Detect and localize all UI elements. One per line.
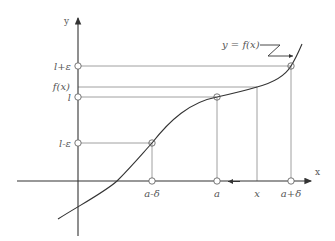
function-curve [58, 44, 302, 219]
curve-markers [149, 63, 294, 146]
marker-a-plus-delta [288, 178, 294, 184]
label-l-minus-epsilon: l-ε [59, 138, 71, 149]
epsilon-delta-diagram: y x l+ε f(x) l l-ε a-δ a x a+δ y = f(x) [0, 0, 335, 241]
marker-a-minus-delta [149, 178, 155, 184]
label-a-minus-delta: a-δ [144, 188, 159, 199]
marker-a [214, 178, 220, 184]
label-a-plus-delta: a+δ [281, 188, 301, 199]
label-l-plus-epsilon: l+ε [54, 61, 71, 72]
label-l: l [68, 92, 71, 103]
horizontal-guides [78, 66, 291, 143]
x-axis-label: x [315, 167, 320, 177]
marker-l-minus-epsilon [75, 140, 81, 146]
label-a: a [214, 188, 220, 199]
curve-label-pointer [260, 45, 293, 56]
marker-l-plus-epsilon [75, 63, 81, 69]
y-axis-label: y [63, 16, 70, 26]
marker-l [75, 94, 81, 100]
label-x: x [254, 188, 260, 199]
curve-label: y = f(x) [221, 39, 260, 50]
label-fx: f(x) [52, 81, 70, 92]
vertical-guides [152, 66, 291, 181]
